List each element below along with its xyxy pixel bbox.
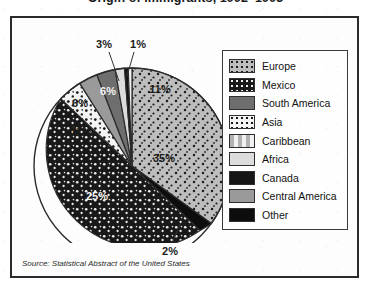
legend-label-canada: Canada — [262, 172, 299, 184]
legend-label-south-america: South America — [262, 97, 330, 109]
slice-label-canada: 1% — [130, 38, 146, 50]
slice-label-mexico: 25% — [86, 190, 108, 202]
legend-swatch-mexico — [229, 78, 255, 92]
legend-item-central-america[interactable]: Central America — [229, 187, 347, 206]
legend-swatch-central-america — [229, 189, 255, 203]
slice-label-europe: 35% — [153, 152, 175, 164]
figure-frame: 35% 25% 11% 6% 6% 3% 1% 11% 2% Europe Me… — [10, 16, 359, 278]
legend-item-caribbean[interactable]: Caribbean — [229, 131, 347, 150]
slice-label-south-america: 6% — [100, 85, 116, 97]
legend-item-south-america[interactable]: South America — [229, 94, 347, 113]
legend-item-asia[interactable]: Asia — [229, 113, 347, 132]
legend-swatch-europe — [229, 59, 255, 73]
legend-swatch-other — [229, 208, 255, 222]
pie-chart: 35% 25% 11% 6% 6% 3% 1% 11% 2% — [12, 18, 227, 243]
slice-label-other: 2% — [162, 245, 178, 257]
chart-legend: Europe Mexico South America Asia Caribbe… — [222, 50, 348, 230]
legend-item-europe[interactable]: Europe — [229, 57, 347, 76]
legend-item-mexico[interactable]: Mexico — [229, 76, 347, 95]
legend-label-mexico: Mexico — [262, 79, 295, 91]
legend-label-europe: Europe — [262, 60, 296, 72]
pie-svg — [12, 18, 227, 243]
slice-label-caribbean: 11% — [149, 83, 170, 95]
slice-label-central-america: 6% — [72, 97, 88, 109]
legend-swatch-africa — [229, 152, 255, 166]
legend-label-other: Other — [262, 209, 288, 221]
legend-label-africa: Africa — [262, 153, 289, 165]
legend-item-canada[interactable]: Canada — [229, 169, 347, 188]
legend-item-other[interactable]: Other — [229, 206, 347, 225]
slice-label-asia: 11% — [70, 125, 91, 137]
legend-swatch-south-america — [229, 96, 255, 110]
legend-item-africa[interactable]: Africa — [229, 150, 347, 169]
legend-label-asia: Asia — [262, 116, 282, 128]
legend-swatch-canada — [229, 171, 255, 185]
source-note: Source: Statistical Abstract of the Unit… — [22, 259, 190, 268]
legend-label-caribbean: Caribbean — [262, 135, 310, 147]
page-title: Origin of Immigrants, 1992–1993 — [0, 0, 371, 5]
legend-swatch-asia — [229, 115, 255, 129]
slice-label-africa: 3% — [96, 38, 112, 50]
legend-label-central-america: Central America — [262, 190, 337, 202]
legend-swatch-caribbean — [229, 134, 255, 148]
